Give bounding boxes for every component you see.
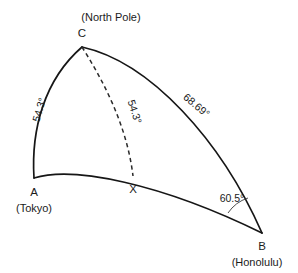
arc-measure-CX: 54.3° (126, 98, 145, 125)
vertex-label-A: A (30, 186, 38, 198)
spherical-triangle-diagram: C (North Pole) A (Tokyo) B (Honolulu) X … (0, 0, 298, 273)
vertex-place-A: (Tokyo) (16, 202, 52, 214)
arc-edge-CX-dashed (82, 47, 133, 176)
angle-measure-B: 60.5° (220, 192, 245, 204)
vertex-label-X: X (129, 183, 137, 195)
vertex-place-B: (Honolulu) (232, 256, 283, 268)
arc-measure-AC: 54.3° (30, 96, 48, 123)
vertex-place-C: (North Pole) (81, 11, 140, 23)
diagram-canvas: C (North Pole) A (Tokyo) B (Honolulu) X … (0, 0, 298, 273)
vertex-label-C: C (78, 27, 86, 39)
vertex-label-B: B (258, 240, 266, 252)
